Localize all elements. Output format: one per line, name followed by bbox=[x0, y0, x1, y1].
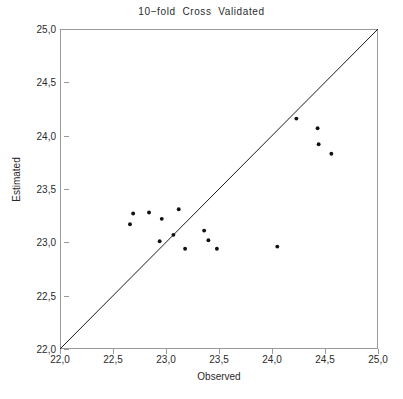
x-tick-mark bbox=[113, 349, 114, 354]
x-tick-label: 25,0 bbox=[356, 354, 400, 365]
x-tick-label: 24,0 bbox=[250, 354, 294, 365]
x-tick-label: 22,5 bbox=[91, 354, 135, 365]
x-tick-label: 23,0 bbox=[144, 354, 188, 365]
scatter-plot-figure: 10−fold Cross Validated 22,022,523,023,5… bbox=[0, 0, 403, 399]
x-tick-label: 23,5 bbox=[197, 354, 241, 365]
x-axis-ticks: 22,022,523,023,524,024,525,0 bbox=[0, 0, 403, 399]
x-tick-mark bbox=[219, 349, 220, 354]
x-tick-label: 24,5 bbox=[303, 354, 347, 365]
x-tick-label: 22,0 bbox=[38, 354, 82, 365]
x-axis-title: Observed bbox=[60, 371, 378, 382]
x-tick-mark bbox=[325, 349, 326, 354]
x-tick-mark bbox=[166, 349, 167, 354]
x-tick-mark bbox=[378, 349, 379, 354]
y-axis-title: Estimated bbox=[11, 140, 22, 220]
x-tick-mark bbox=[60, 349, 61, 354]
x-tick-mark bbox=[272, 349, 273, 354]
